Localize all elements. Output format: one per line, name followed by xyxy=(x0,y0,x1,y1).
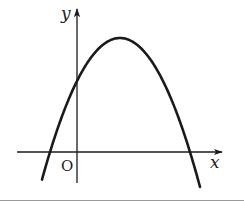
origin-label: O xyxy=(61,157,73,175)
figure-canvas: y x O xyxy=(0,0,244,205)
x-axis-label: x xyxy=(210,152,220,172)
y-axis-label: y xyxy=(60,3,71,23)
parabola-figure: y x O xyxy=(0,0,244,205)
